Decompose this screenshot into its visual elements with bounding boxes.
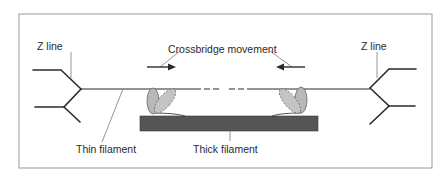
thin-filament-label: Thin filament — [76, 143, 136, 155]
arrow-right-icon — [147, 64, 176, 71]
sarcomere-diagram: Z line Z line Crossbridge movement Thin … — [0, 0, 445, 180]
myosin-head-left — [147, 86, 179, 117]
myosin-necks — [153, 113, 301, 116]
thick-filament-label: Thick filament — [193, 143, 258, 155]
myosin-head-right — [276, 86, 307, 117]
z-line-right-label: Z line — [361, 40, 387, 52]
z-line-left — [33, 70, 81, 122]
thin-filament-leader — [102, 89, 123, 142]
z-line-left-label: Z line — [37, 40, 63, 52]
thick-filament — [140, 116, 318, 131]
crossbridge-movement-label: Crossbridge movement — [168, 43, 277, 55]
arrow-left-icon — [276, 64, 305, 71]
